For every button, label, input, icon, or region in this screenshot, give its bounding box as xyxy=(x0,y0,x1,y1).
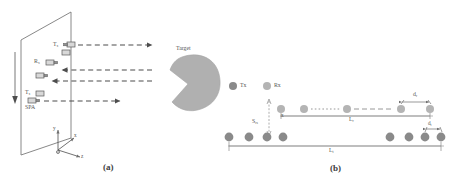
dim-dr xyxy=(401,100,431,104)
dim-srs xyxy=(267,99,271,136)
panel-b-graphics xyxy=(0,0,451,184)
label-dr: dr xyxy=(413,92,417,98)
figure-root: Tx Rx Tx SPA Target y x z (a) xyxy=(0,0,451,184)
label-rx-first-element: x xyxy=(281,113,284,118)
dim-dt xyxy=(425,127,442,132)
label-lr: Lr xyxy=(349,117,354,123)
tx-array-dots-left xyxy=(225,133,288,142)
label-srs: Srs xyxy=(252,119,258,125)
legend-label-tx: Tx xyxy=(240,83,246,89)
tx-array-dots-right xyxy=(386,133,446,142)
dim-lr xyxy=(281,113,430,119)
label-dt: dt xyxy=(428,121,432,127)
caption-panel-b: (b) xyxy=(330,164,341,173)
dim-lt xyxy=(229,142,441,151)
legend-dot-tx xyxy=(229,82,237,90)
label-lt: Lt xyxy=(329,148,334,154)
legend-dot-rx xyxy=(263,82,271,90)
legend-label-rx: Rx xyxy=(274,83,281,89)
